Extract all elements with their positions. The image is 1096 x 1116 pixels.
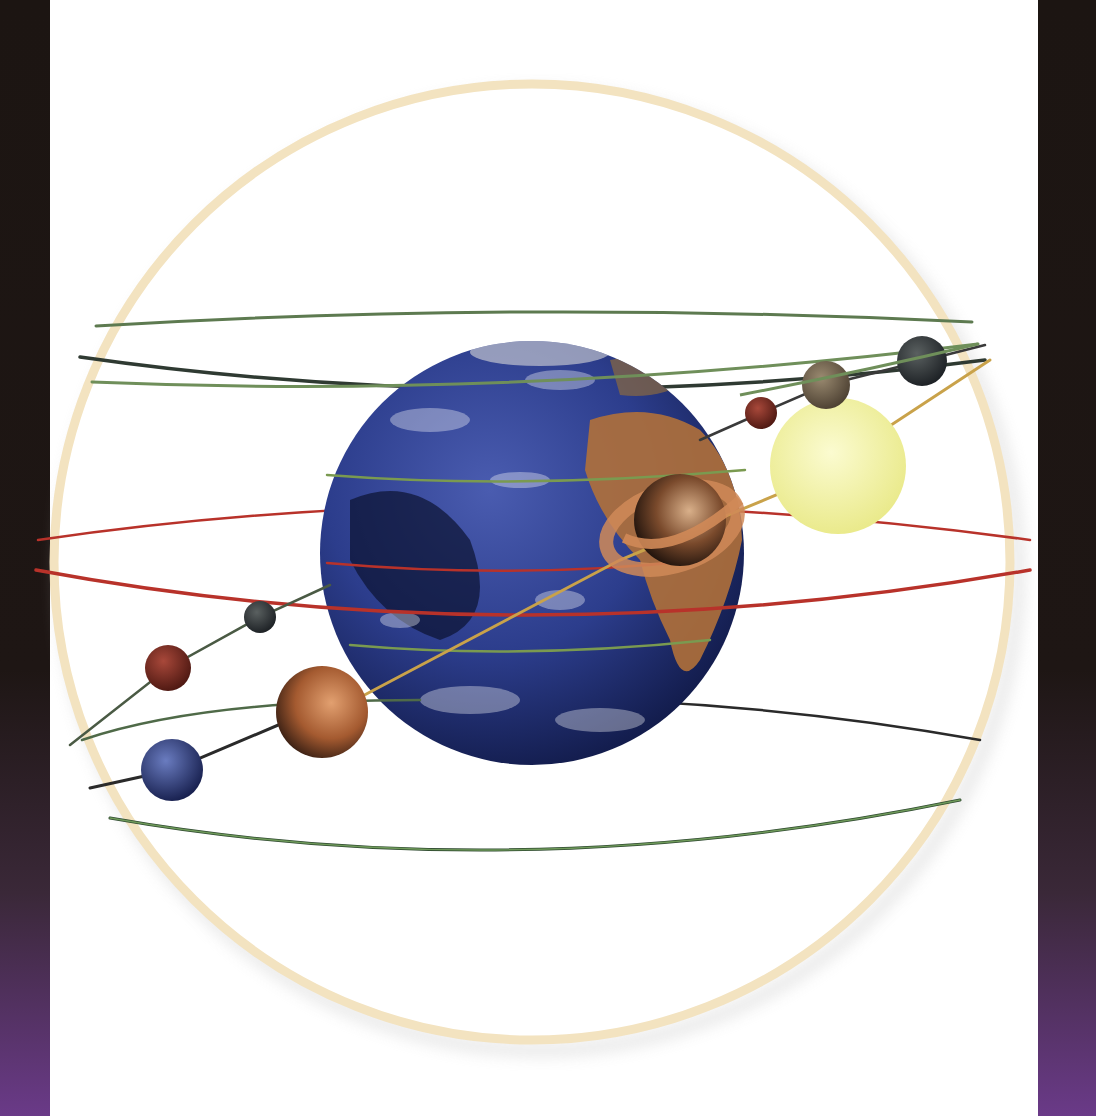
sun bbox=[770, 398, 906, 534]
jupiter bbox=[276, 666, 368, 758]
mars bbox=[145, 645, 191, 691]
planet-small-dark bbox=[244, 601, 276, 633]
geocentric-model-illustration bbox=[0, 0, 1096, 1116]
planet-blue bbox=[141, 739, 203, 801]
planet-grey bbox=[802, 361, 850, 409]
planet-small-red bbox=[745, 397, 777, 429]
